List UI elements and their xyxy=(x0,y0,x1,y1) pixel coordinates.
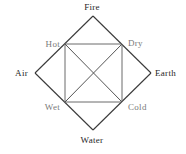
label-element-left: Air xyxy=(15,68,28,78)
elements-qualities-diagram: Fire Air Earth Water Hot Dry Wet Cold xyxy=(0,0,186,154)
label-quality-top-right: Dry xyxy=(128,38,143,48)
label-element-top: Fire xyxy=(84,2,100,12)
label-quality-bottom-left: Wet xyxy=(45,102,60,112)
label-quality-bottom-right: Cold xyxy=(128,102,147,112)
label-quality-top-left: Hot xyxy=(46,39,61,49)
label-element-right: Earth xyxy=(155,68,176,78)
label-element-bottom: Water xyxy=(81,135,104,145)
opposite-diagonals xyxy=(65,44,122,102)
